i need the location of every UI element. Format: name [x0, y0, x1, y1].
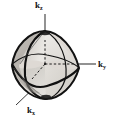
k-y-label-sub: y: [103, 64, 106, 70]
k-x-label-sub: x: [32, 110, 35, 116]
k-x-axis-label: kx: [27, 106, 35, 115]
octahedron-figure: [0, 0, 113, 123]
k-z-label-sub: z: [40, 5, 43, 11]
top-vertex-highlight: [40, 31, 50, 35]
k-z-axis-label: kz: [35, 1, 43, 10]
figure-container: kz ky kx: [0, 0, 113, 123]
k-y-axis-label: ky: [98, 60, 106, 69]
origin-point: [44, 63, 46, 65]
bottom-vertex-highlight: [41, 95, 51, 99]
